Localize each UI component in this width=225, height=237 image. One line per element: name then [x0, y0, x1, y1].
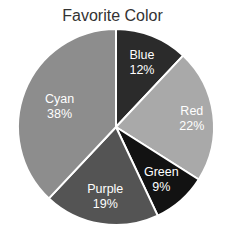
- slice-percent: 9%: [152, 180, 170, 194]
- slice-category: Blue: [129, 48, 154, 62]
- slice-label-red: Red22%: [179, 104, 204, 133]
- pie-chart: Blue12%Red22%Green9%Purple19%Cyan38%: [0, 0, 225, 237]
- slice-label-blue: Blue12%: [129, 48, 154, 77]
- slice-category: Purple: [87, 182, 123, 196]
- slice-category: Cyan: [45, 92, 74, 106]
- slice-percent: 38%: [47, 107, 72, 121]
- slice-category: Red: [180, 104, 203, 118]
- slice-category: Green: [144, 165, 179, 179]
- slice-percent: 19%: [93, 197, 118, 211]
- slice-percent: 22%: [179, 119, 204, 133]
- slice-percent: 12%: [129, 63, 154, 77]
- slice-label-cyan: Cyan38%: [45, 92, 74, 121]
